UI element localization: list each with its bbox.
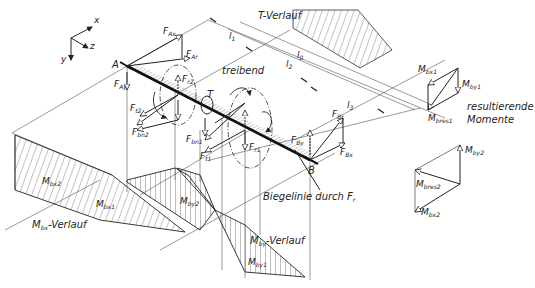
panel-m-by2-label: Mby2 — [465, 146, 484, 156]
shaft-load-diagram: x z y A B FAx FAr FAy Fr2 Ft2 Fbn2 Fbn1 … — [0, 0, 535, 288]
force-f-r1-label: Fr1 — [249, 143, 260, 153]
force-f-bx-label: FBx — [340, 148, 353, 158]
resultierende-label: resultierende — [467, 102, 534, 112]
force-f-ax-label: FAx — [163, 27, 176, 37]
panel-m-bx1-label: Mbx1 — [418, 65, 437, 75]
moment-m-by1-label: Mby1 — [248, 258, 267, 268]
point-a-label: A — [112, 60, 119, 70]
treibend-label: treibend — [222, 66, 264, 76]
force-f-r2-label: Fr2 — [182, 75, 193, 85]
force-f-bn1-label: Fbn1 — [186, 135, 203, 145]
force-f-by-label: FBy — [291, 136, 304, 146]
force-f-t2-label: Ft2 — [130, 104, 141, 114]
moment-m-bx1-label: Mbx1 — [96, 200, 115, 210]
dimension-l1-label: l1 — [229, 32, 235, 42]
mby-verlauf-label: Mby-Verlauf — [250, 236, 305, 247]
point-b-label: B — [308, 166, 315, 176]
dimension-l0-label: l0 — [297, 51, 303, 61]
axis-x-label: x — [94, 16, 99, 25]
momente-label: Momente — [467, 115, 514, 125]
panel-m-bres1-label: Mbres1 — [428, 114, 453, 124]
axis-y-label: y — [61, 55, 66, 64]
force-f-br-label: FBr — [332, 110, 344, 120]
panel-m-by1-label: Mby1 — [462, 80, 481, 90]
force-f-ay-label: FAy — [114, 80, 127, 90]
panel-m-bres2-label: Mbres2 — [416, 180, 441, 190]
torque-t-label: T — [207, 90, 213, 100]
biegelinie-label: Biegelinie durch Fr — [263, 192, 355, 203]
force-f-t1-label: Ft1 — [200, 152, 211, 162]
panel-m-bx2-label: Mbx2 — [421, 208, 440, 218]
t-verlauf-diagram — [293, 10, 392, 68]
axis-z-label: z — [90, 42, 95, 51]
force-f-bn2-label: Fbn2 — [132, 128, 149, 138]
moment-m-by2-label: Mby2 — [180, 197, 199, 207]
coordinate-axes-icon — [71, 27, 92, 60]
t-verlauf-label: T-Verlauf — [258, 11, 301, 21]
force-f-ar-label: FAr — [186, 50, 198, 60]
dimension-l2-label: l2 — [286, 60, 292, 70]
moment-m-bx2-label: Mbx2 — [42, 177, 61, 187]
dimension-l3-label: l3 — [347, 101, 353, 111]
mbx-verlauf-label: Mbx-Verlauf — [32, 220, 87, 231]
